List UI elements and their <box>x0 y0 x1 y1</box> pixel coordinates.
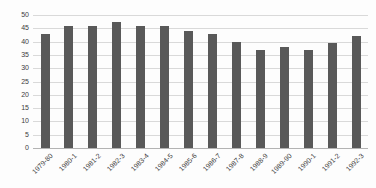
bar <box>208 34 217 148</box>
gridline <box>33 121 368 122</box>
gridline <box>33 68 368 69</box>
bar <box>160 26 169 148</box>
y-axis-tick-label: 45 <box>0 24 29 32</box>
gridline <box>33 28 368 29</box>
gridline <box>33 55 368 56</box>
y-axis-tick-label: 20 <box>0 91 29 99</box>
y-axis-tick-label: 10 <box>0 117 29 125</box>
x-axis-line <box>33 148 368 149</box>
bar <box>41 34 50 148</box>
bar <box>184 31 193 148</box>
y-axis-tick-label: 50 <box>0 11 29 19</box>
y-axis-tick-label: 25 <box>0 78 29 86</box>
bar <box>352 36 361 148</box>
y-axis-tick-label: 35 <box>0 51 29 59</box>
bar <box>64 26 73 148</box>
y-axis-tick-label: 5 <box>0 131 29 139</box>
y-axis-tick-label: 15 <box>0 104 29 112</box>
bar <box>280 47 289 148</box>
gridline <box>33 15 368 16</box>
bar <box>328 43 337 148</box>
gridline <box>33 108 368 109</box>
chart-page: 05101520253035404550 1979-801980-11981-2… <box>0 0 376 188</box>
bar <box>136 26 145 148</box>
gridline <box>33 135 368 136</box>
gridline <box>33 42 368 43</box>
bar-chart: 05101520253035404550 1979-801980-11981-2… <box>0 0 376 188</box>
gridline <box>33 82 368 83</box>
bar <box>256 50 265 148</box>
bar <box>304 50 313 148</box>
bar <box>112 22 121 148</box>
y-axis-tick-label: 30 <box>0 64 29 72</box>
y-axis-tick-label: 40 <box>0 38 29 46</box>
y-axis-tick-label: 0 <box>0 144 29 152</box>
bar <box>88 26 97 148</box>
bar <box>232 42 241 148</box>
gridline <box>33 95 368 96</box>
